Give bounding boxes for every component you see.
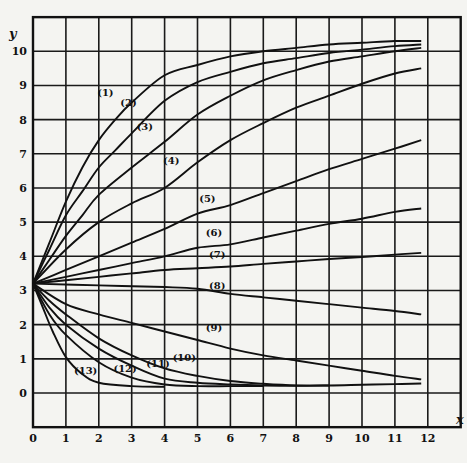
x-tick-label: 1 [62, 432, 70, 445]
y-axis-ticks: 012345678910 [12, 45, 28, 400]
curve-label: (4) [163, 155, 179, 166]
curve-label: (10) [173, 352, 196, 363]
curve-8 [33, 284, 421, 315]
x-axis-ticks: 0123456789101112 [29, 432, 435, 445]
y-tick-label: 0 [19, 387, 27, 400]
y-tick-label: 1 [19, 353, 27, 366]
curve-label: (9) [206, 322, 222, 333]
chart-canvas: (1)(2)(3)(4)(5)(6)(7)(8)(9)(10)(11)(12)(… [0, 0, 467, 463]
x-tick-label: 10 [354, 432, 370, 445]
curve-label: (13) [74, 365, 97, 376]
y-tick-label: 2 [19, 319, 27, 332]
x-tick-label: 8 [292, 432, 300, 445]
y-tick-label: 10 [12, 45, 28, 58]
curve-labels: (1)(2)(3)(4)(5)(6)(7)(8)(9)(10)(11)(12)(… [74, 87, 226, 376]
x-axis-label: x [455, 412, 464, 427]
curve-label: (11) [146, 358, 169, 369]
curve-7 [33, 253, 421, 284]
curve-5 [33, 140, 421, 284]
y-tick-label: 7 [19, 148, 27, 161]
curve-label: (3) [137, 121, 153, 132]
y-tick-label: 9 [19, 79, 27, 92]
curve-label: (7) [209, 249, 225, 260]
curves [33, 41, 421, 387]
curve-label: (2) [120, 97, 136, 108]
curve-label: (8) [209, 280, 225, 291]
curve-label: (6) [206, 227, 222, 238]
y-axis-label: y [8, 26, 18, 41]
y-tick-label: 8 [19, 114, 27, 127]
curve-12 [33, 284, 263, 387]
x-tick-label: 3 [128, 432, 136, 445]
curve-4 [33, 68, 421, 283]
x-tick-label: 6 [227, 432, 235, 445]
x-tick-label: 5 [194, 432, 202, 445]
curve-label: (1) [97, 87, 113, 98]
y-tick-label: 6 [19, 182, 27, 195]
y-tick-label: 4 [19, 250, 27, 263]
x-tick-label: 12 [420, 432, 435, 445]
curve-2 [33, 44, 421, 283]
y-tick-label: 5 [19, 216, 27, 229]
curve-1 [33, 41, 421, 284]
y-tick-label: 3 [19, 284, 27, 297]
x-tick-label: 7 [259, 432, 267, 445]
x-tick-label: 0 [29, 432, 37, 445]
curve-6 [33, 208, 421, 283]
x-tick-label: 11 [387, 432, 402, 445]
x-tick-label: 9 [325, 432, 333, 445]
x-tick-label: 2 [95, 432, 103, 445]
curve-label: (5) [199, 193, 215, 204]
curve-label: (12) [113, 363, 136, 374]
x-tick-label: 4 [161, 432, 169, 445]
